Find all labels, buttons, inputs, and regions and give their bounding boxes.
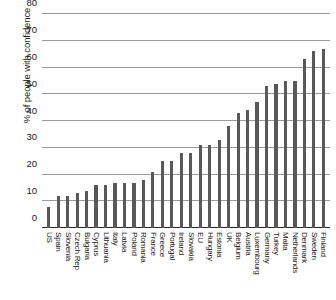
x-axis-tick-label: Sweden <box>309 232 318 260</box>
plot-area: 01020304050607080 <box>42 14 330 228</box>
x-axis-tick-label: Ireland <box>177 232 186 255</box>
bar <box>189 153 192 228</box>
x-axis-tick-label: Denmark <box>300 232 309 263</box>
bar <box>94 185 97 228</box>
bar <box>274 84 277 228</box>
x-label-slot: Spain <box>53 230 62 296</box>
bar-slot <box>262 14 271 228</box>
x-label-slot: Portugal <box>167 230 176 296</box>
bar-slot <box>44 14 53 228</box>
x-label-slot: Estonia <box>214 230 223 296</box>
bar-slot <box>120 14 129 228</box>
x-axis-tick-label: Hungary <box>205 232 214 261</box>
x-axis-tick-label: EU <box>196 232 205 243</box>
y-axis-tick-label: 50 <box>26 77 37 88</box>
bar-slot <box>158 14 167 228</box>
x-label-slot: UK <box>224 230 233 296</box>
y-axis-tick-label: 10 <box>26 185 37 196</box>
x-label-slot: Denmark <box>300 230 309 296</box>
bar-slot <box>281 14 290 228</box>
bar-slot <box>290 14 299 228</box>
bar <box>170 161 173 228</box>
x-axis-tick-label: Poland <box>129 232 138 256</box>
bar <box>76 193 79 228</box>
bar-slot <box>224 14 233 228</box>
bar-slot <box>186 14 195 228</box>
bar-slot <box>148 14 157 228</box>
x-axis-tick-label: Finland <box>319 232 328 257</box>
bar-slot <box>129 14 138 228</box>
x-axis-tick-label: Lithuania <box>101 232 110 263</box>
bar-slot <box>53 14 62 228</box>
bar <box>227 126 230 228</box>
x-label-slot: US <box>44 230 53 296</box>
x-label-slot: EU <box>196 230 205 296</box>
x-label-slot: Greece <box>158 230 167 296</box>
x-axis-tick-label: Estonia <box>215 232 224 257</box>
y-axis-tick-label: 60 <box>26 50 37 61</box>
x-axis-tick-label: Germany <box>262 232 271 264</box>
bar-slot <box>110 14 119 228</box>
bar-slot <box>252 14 261 228</box>
x-axis-tick-label: Turkey <box>271 232 280 255</box>
x-axis-tick-label: Malta <box>281 232 290 251</box>
y-axis-tick-label: 70 <box>26 23 37 34</box>
y-axis-tick-label: 80 <box>26 0 37 8</box>
bar-slot <box>233 14 242 228</box>
x-axis-tick-label: Cyprus <box>92 232 101 256</box>
x-label-slot: Bulgaria <box>82 230 91 296</box>
bar-slot <box>196 14 205 228</box>
bar <box>218 140 221 228</box>
bar-slot <box>101 14 110 228</box>
x-label-slot: Finland <box>319 230 328 296</box>
y-axis-tick-label: 40 <box>26 104 37 115</box>
bar-slot <box>205 14 214 228</box>
x-label-slot: Turkey <box>271 230 280 296</box>
x-label-slot: Germany <box>262 230 271 296</box>
y-axis-tick-label: 20 <box>26 158 37 169</box>
x-axis-tick-label: Netherlands <box>290 232 299 273</box>
bar <box>142 180 145 228</box>
x-label-slot: Slovakia <box>186 230 195 296</box>
bar-slot <box>309 14 318 228</box>
bar-slot <box>72 14 81 228</box>
x-axis-tick-label: Czech Rep <box>73 232 82 270</box>
bar <box>208 145 211 228</box>
bar <box>255 102 258 228</box>
x-label-slot: Sweden <box>309 230 318 296</box>
y-axis-tick-label: 0 <box>32 212 37 223</box>
bar <box>180 153 183 228</box>
x-axis-tick-label: Latvia <box>120 232 129 252</box>
x-label-slot: Luxembourg <box>252 230 261 296</box>
bar-slot <box>214 14 223 228</box>
bar-slot <box>82 14 91 228</box>
x-label-slot: Romania <box>139 230 148 296</box>
x-axis-tick-label: Romania <box>139 232 148 263</box>
x-axis-tick-labels: USSpainSloveniaCzech RepBulgariaCyprusLi… <box>42 230 330 296</box>
bar <box>161 161 164 228</box>
bar <box>322 49 325 228</box>
x-label-slot: Italy <box>110 230 119 296</box>
bar <box>265 86 268 228</box>
x-axis-tick-label: Luxembourg <box>253 232 262 274</box>
bar <box>66 196 69 228</box>
bar <box>237 113 240 228</box>
x-axis-tick-label: US <box>44 232 53 243</box>
x-label-slot: Austria <box>243 230 252 296</box>
y-axis-title: % of people with confidence <box>21 0 32 146</box>
x-axis-tick-label: Greece <box>158 232 167 257</box>
x-label-slot: Malta <box>281 230 290 296</box>
x-label-slot: Ireland <box>177 230 186 296</box>
x-label-slot: Cyprus <box>91 230 100 296</box>
x-label-slot: France <box>148 230 157 296</box>
bar-slot <box>63 14 72 228</box>
x-axis-tick-label: Belgium <box>234 232 243 260</box>
bar-slot <box>271 14 280 228</box>
x-label-slot: Slovenia <box>63 230 72 296</box>
bar <box>284 81 287 228</box>
bar <box>312 51 315 228</box>
bar <box>293 81 296 228</box>
bar <box>199 145 202 228</box>
bar-chart-figure: % of people with confidence 010203040506… <box>0 0 336 300</box>
x-label-slot: Poland <box>129 230 138 296</box>
